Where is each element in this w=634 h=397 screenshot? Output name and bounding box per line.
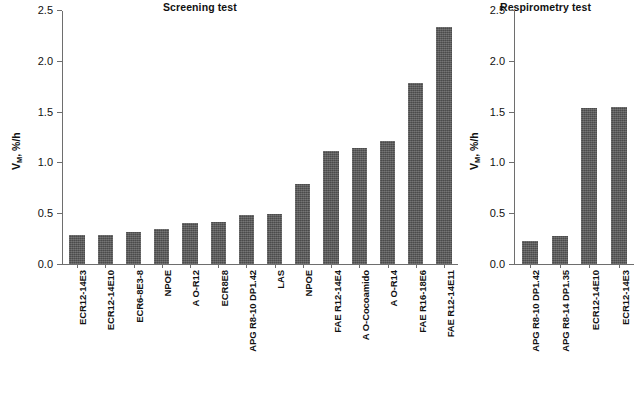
bar-series [63, 11, 458, 264]
y-axis-tick: 1.0 [57, 162, 62, 163]
bar-slot [373, 11, 401, 264]
x-axis-label-slot: APG R8-14 DP1.35 [545, 270, 575, 395]
x-axis-label-slot: ECR12-14E10 [575, 270, 605, 395]
bar [295, 184, 310, 264]
bar [69, 235, 84, 264]
x-axis-tick [388, 264, 389, 268]
x-axis-label-slot: FAE R16-18E6 [402, 270, 430, 395]
y-axis-tick-label: 0.0 [490, 258, 505, 270]
bar-slot [63, 11, 91, 264]
y-axis-tick-label: 2.5 [38, 4, 53, 16]
x-axis-tick-label: APG R8-10 DP1.42 [530, 270, 541, 352]
x-axis-tick [105, 264, 106, 268]
y-axis-tick-label: 2.5 [490, 4, 505, 16]
figure-container: Screening test VM, %/h 0.00.51.01.52.02.… [0, 0, 634, 397]
chart-panel-respirometry-test: Respirometry test VM, %/h 0.00.51.01.52.… [460, 0, 634, 397]
x-axis-label-slot: NPOE [289, 270, 317, 395]
bar [380, 141, 395, 264]
bar-slot [232, 11, 260, 264]
bar [552, 236, 568, 264]
y-axis-tick: 1.0 [509, 162, 514, 163]
bar-slot [545, 11, 575, 264]
bar [154, 229, 169, 264]
y-axis-tick: 0.5 [57, 213, 62, 214]
x-axis-tick-label: APG R8-10 DP1.42 [247, 270, 258, 352]
x-axis-line [62, 264, 458, 265]
y-axis-tick: 0.0 [57, 264, 62, 265]
plot-area: 0.00.51.01.52.02.5 [62, 11, 458, 265]
x-axis-tick-label: A O-Cocoamido [360, 270, 371, 340]
bar-slot [91, 11, 119, 264]
x-axis-tick-label: ECR6-8E3-8 [134, 270, 145, 323]
bar-slot [575, 11, 605, 264]
x-axis-label-slot: A O-Cocoamido [346, 270, 374, 395]
y-axis-label: VM, %/h [468, 132, 480, 170]
x-axis-label-slot: ECR12-14E3 [63, 270, 91, 395]
x-axis-label-slot: A O-R12 [176, 270, 204, 395]
x-axis-tick-label: NPOE [162, 270, 173, 297]
bar [436, 27, 451, 264]
x-axis-tick [619, 264, 620, 268]
y-axis-tick-label: 0.0 [38, 258, 53, 270]
x-axis-label-slot: A O-R14 [374, 270, 402, 395]
x-axis-tick [218, 264, 219, 268]
x-axis-tick [444, 264, 445, 268]
y-axis-label-subscript: M [15, 157, 24, 163]
bar-slot [402, 11, 430, 264]
y-axis-tick: 2.0 [509, 61, 514, 62]
x-axis-label-slot: ECR12-14E10 [91, 270, 119, 395]
bar [352, 148, 367, 264]
y-axis-label-subscript: M [473, 157, 482, 163]
x-axis-tick [416, 264, 417, 268]
bar-series [515, 11, 634, 264]
x-axis-tick [134, 264, 135, 268]
bar-slot [317, 11, 345, 264]
x-axis-tick [190, 264, 191, 268]
x-axis-tick-label: FAE R12-14E11 [445, 270, 456, 337]
x-axis-label-slot: ECR6-8E3-8 [120, 270, 148, 395]
bar-slot [515, 11, 545, 264]
x-axis-tick-label: ECR12-14E10 [590, 270, 601, 330]
x-axis-label-slot: LAS [261, 270, 289, 395]
y-axis-tick: 2.5 [509, 10, 514, 11]
bar-slot [176, 11, 204, 264]
y-axis-label: VM, %/h [10, 132, 22, 170]
y-axis-tick: 1.5 [57, 112, 62, 113]
x-axis-tick-label: A O-R14 [388, 270, 399, 306]
x-axis-tick [530, 264, 531, 268]
y-axis-label-base: V [10, 163, 22, 170]
bar [581, 108, 597, 264]
bar-slot [430, 11, 458, 264]
x-axis-tick-labels: ECR12-14E3ECR12-14E10ECR6-8E3-8NPOEA O-R… [63, 270, 459, 395]
x-axis-tick-label: ECR12-14E3 [77, 270, 88, 325]
y-axis-tick: 2.0 [57, 61, 62, 62]
x-axis-label-slot: APG R8-10 DP1.42 [515, 270, 545, 395]
y-axis-tick-label: 0.5 [490, 207, 505, 219]
x-axis-label-slot: APG R8-10 DP1.42 [233, 270, 261, 395]
bar [408, 83, 423, 264]
x-axis-tick-label: LAS [275, 270, 286, 289]
y-axis-tick-label: 1.5 [490, 106, 505, 118]
x-axis-tick [246, 264, 247, 268]
bar-slot [148, 11, 176, 264]
y-axis-label-base: V [468, 163, 480, 170]
y-axis-tick: 2.5 [57, 10, 62, 11]
x-axis-label-slot: ECR12-14E3 [605, 270, 634, 395]
x-axis-tick [331, 264, 332, 268]
bar [611, 107, 627, 264]
bar-slot [261, 11, 289, 264]
plot-area: 0.00.51.01.52.02.5 [514, 11, 634, 265]
x-axis-tick-labels: APG R8-10 DP1.42APG R8-14 DP1.35ECR12-14… [515, 270, 634, 395]
y-axis-tick-label: 2.0 [38, 55, 53, 67]
x-axis-tick [303, 264, 304, 268]
bar-slot [204, 11, 232, 264]
x-axis-tick-label: APG R8-14 DP1.35 [560, 270, 571, 352]
y-axis-tick-label: 2.0 [490, 55, 505, 67]
x-axis-tick [275, 264, 276, 268]
bar-slot [345, 11, 373, 264]
y-axis-tick-label: 0.5 [38, 207, 53, 219]
x-axis-tick-label: ECR12-14E3 [620, 270, 631, 325]
x-axis-label-slot: NPOE [148, 270, 176, 395]
bar-slot [119, 11, 147, 264]
x-axis-tick [359, 264, 360, 268]
